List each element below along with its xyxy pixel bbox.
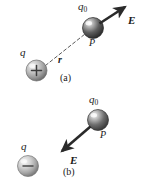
label-point-p-b: P bbox=[100, 130, 106, 140]
caption-panel-a: (a) bbox=[60, 73, 71, 83]
source-charge-negative-b bbox=[18, 156, 39, 177]
label-source-charge-b: q bbox=[21, 141, 27, 152]
panel-a-graphics bbox=[26, 7, 125, 81]
source-charge-positive-a bbox=[26, 60, 47, 81]
field-vector-a bbox=[100, 7, 126, 24]
caption-panel-b: (b) bbox=[63, 167, 75, 177]
distance-line-r bbox=[46, 34, 86, 66]
electric-field-figure: q0 E P q r (a) q0 P E q (b) bbox=[0, 0, 143, 188]
field-vector-b bbox=[62, 127, 91, 152]
label-source-charge-a: q bbox=[20, 47, 26, 58]
label-distance-r: r bbox=[58, 55, 62, 65]
test-charge-a bbox=[83, 18, 104, 39]
label-field-vector-b: E bbox=[70, 155, 77, 166]
label-test-charge-a: q0 bbox=[78, 1, 87, 13]
label-test-charge-b: q0 bbox=[89, 94, 98, 106]
label-field-vector-a: E bbox=[128, 15, 135, 26]
label-point-p-a: P bbox=[89, 38, 95, 48]
